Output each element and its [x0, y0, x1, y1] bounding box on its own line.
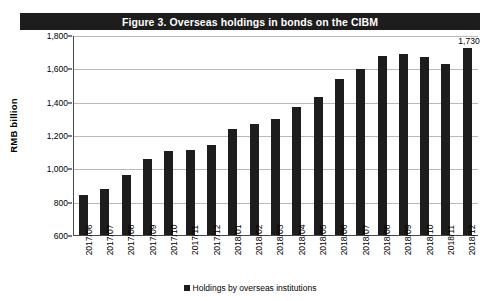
bar	[164, 151, 173, 236]
x-axis-tick-label: 2018/06	[339, 225, 349, 256]
legend-label: Holdings by overseas institutions	[193, 283, 317, 293]
x-axis-tick-label: 2017/07	[105, 225, 115, 256]
x-tick-slot: 2018/09	[393, 238, 414, 286]
bar	[463, 48, 472, 236]
bar-slot	[201, 36, 222, 236]
y-axis-tick-mark	[68, 102, 72, 103]
y-axis-tick-mark	[68, 36, 72, 37]
x-tick-slot: 2018/07	[350, 238, 371, 286]
figure-title-bar: Figure 3. Overseas holdings in bonds on …	[20, 13, 480, 30]
bar-slot	[116, 36, 137, 236]
x-tick-slot: 2018/12	[457, 238, 478, 286]
y-axis-tick-label: 1,000	[47, 164, 68, 174]
bar	[378, 56, 387, 236]
bar-slot	[94, 36, 115, 236]
x-axis-tick-label: 2018/09	[403, 225, 413, 256]
x-axis-tick-label: 2018/04	[297, 225, 307, 256]
y-axis-tick-mark	[68, 169, 72, 170]
chart-legend: Holdings by overseas institutions	[0, 283, 500, 293]
bar	[207, 145, 216, 236]
bar-slot: 1,730	[457, 36, 478, 236]
bar	[314, 97, 323, 236]
x-tick-slot: 2018/04	[286, 238, 307, 286]
x-axis-tick-label: 2017/09	[148, 225, 158, 256]
x-axis-tick-label: 2018/02	[254, 225, 264, 256]
plot-wrapper: RMB billion 6008001,0001,2001,4001,6001,…	[0, 36, 500, 236]
x-axis-tick-label: 2018/12	[467, 225, 477, 256]
x-tick-slot: 2017/12	[201, 238, 222, 286]
x-axis-tick-label: 2017/10	[169, 225, 179, 256]
y-axis-tick-mark	[68, 236, 72, 237]
x-axis-tick-label: 2018/07	[361, 225, 371, 256]
x-axis-tick-labels: 2017/062017/072017/082017/092017/102017/…	[73, 238, 478, 286]
bar	[356, 69, 365, 237]
y-axis-tick-label: 1,400	[47, 98, 68, 108]
x-tick-slot: 2017/07	[94, 238, 115, 286]
bar	[420, 57, 429, 236]
y-axis-tick-label: 1,200	[47, 131, 68, 141]
x-tick-slot: 2017/10	[158, 238, 179, 286]
y-axis-title: RMB billion	[8, 51, 19, 201]
x-axis-tick-label: 2017/06	[84, 225, 94, 256]
bar-slot	[244, 36, 265, 236]
x-tick-slot: 2017/11	[180, 238, 201, 286]
x-tick-slot: 2018/10	[414, 238, 435, 286]
y-axis-tick-mark	[68, 69, 72, 70]
bar-slot	[371, 36, 392, 236]
x-tick-slot: 2018/06	[329, 238, 350, 286]
bar-slot	[73, 36, 94, 236]
figure-title: Figure 3. Overseas holdings in bonds on …	[122, 16, 378, 28]
y-axis-tick-labels: 6008001,0001,2001,4001,6001,800	[30, 36, 72, 236]
x-axis-tick-label: 2018/11	[446, 225, 456, 255]
bar-slot	[329, 36, 350, 236]
y-axis-tick-mark	[68, 136, 72, 137]
bar	[186, 150, 195, 236]
x-tick-slot: 2018/08	[371, 238, 392, 286]
bar-value-label: 1,730	[458, 36, 479, 46]
x-axis-tick-label: 2018/08	[382, 225, 392, 256]
x-tick-slot: 2018/05	[307, 238, 328, 286]
y-axis-tick-label: 600	[54, 231, 68, 241]
x-axis-tick-label: 2018/01	[233, 225, 243, 256]
y-axis-tick-label: 800	[54, 198, 68, 208]
bar-slot	[286, 36, 307, 236]
bar-slot	[158, 36, 179, 236]
bar-slot	[222, 36, 243, 236]
bar-slot	[393, 36, 414, 236]
bar-slot	[414, 36, 435, 236]
figure-container: Figure 3. Overseas holdings in bonds on …	[0, 0, 500, 301]
y-axis-tick-label: 1,800	[47, 31, 68, 41]
x-tick-slot: 2018/01	[222, 238, 243, 286]
bar-slot	[137, 36, 158, 236]
bar	[292, 107, 301, 236]
x-tick-slot: 2018/02	[244, 238, 265, 286]
x-tick-slot: 2017/06	[73, 238, 94, 286]
bar-slot	[307, 36, 328, 236]
square-marker-icon	[184, 285, 190, 291]
bar-slot	[435, 36, 456, 236]
x-tick-slot: 2017/09	[137, 238, 158, 286]
x-axis-tick-label: 2017/11	[190, 225, 200, 255]
bar	[228, 129, 237, 237]
y-axis-tick-mark	[68, 202, 72, 203]
bar-slot	[350, 36, 371, 236]
x-tick-slot: 2018/03	[265, 238, 286, 286]
plot-area: 1,730	[73, 36, 478, 236]
x-axis-tick-label: 2018/10	[425, 225, 435, 256]
bar-slot	[265, 36, 286, 236]
bar	[271, 119, 280, 236]
x-axis-tick-label: 2017/08	[126, 225, 136, 256]
bar	[399, 54, 408, 236]
x-axis-tick-label: 2018/03	[275, 225, 285, 256]
x-tick-slot: 2017/08	[116, 238, 137, 286]
x-axis-tick-label: 2018/05	[318, 225, 328, 256]
bar-series: 1,730	[73, 36, 478, 236]
bar	[441, 64, 450, 237]
bar	[250, 124, 259, 237]
x-axis-tick-label: 2017/12	[212, 225, 222, 256]
bar	[335, 79, 344, 236]
y-axis-tick-label: 1,600	[47, 64, 68, 74]
x-tick-slot: 2018/11	[435, 238, 456, 286]
bar-slot	[180, 36, 201, 236]
